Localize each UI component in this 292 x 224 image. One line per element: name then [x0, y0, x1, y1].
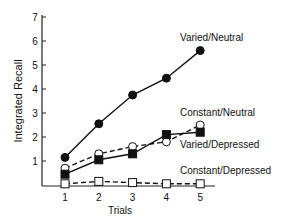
data-point-marker	[162, 180, 170, 188]
data-point-marker	[162, 131, 170, 139]
x-axis-label: Trials	[108, 205, 132, 216]
data-point-marker	[129, 91, 137, 99]
series-label: Constant/Depressed	[180, 165, 271, 176]
series-label: Constant/Neutral	[180, 107, 255, 118]
data-point-marker	[196, 180, 204, 188]
data-point-marker	[61, 170, 69, 178]
y-tick-label: 1	[32, 156, 38, 167]
y-axis-label: Integrated Recall	[12, 59, 24, 142]
data-point-marker	[196, 128, 204, 136]
series-labels: Varied/NeutralConstant/NeutralVaried/Dep…	[180, 32, 271, 176]
x-ticks: 12345	[62, 192, 203, 203]
y-ticks: 1234567	[32, 12, 46, 167]
y-tick-label: 3	[32, 108, 38, 119]
x-tick-label: 3	[130, 192, 136, 203]
data-point-marker	[95, 120, 103, 128]
y-tick-label: 7	[32, 12, 38, 23]
series-label: Varied/Depressed	[180, 139, 259, 150]
x-tick-label: 2	[96, 192, 102, 203]
x-tick-label: 1	[62, 192, 68, 203]
y-tick-label: 4	[32, 84, 38, 95]
line-chart: 1234567 12345 Integrated Recall Trials V…	[0, 0, 292, 224]
data-point-marker	[196, 47, 204, 55]
x-tick-label: 5	[197, 192, 203, 203]
y-tick-label: 6	[32, 36, 38, 47]
x-tick-label: 4	[164, 192, 170, 203]
data-point-marker	[129, 179, 137, 187]
data-point-marker	[61, 153, 69, 161]
y-tick-label: 2	[32, 132, 38, 143]
data-point-marker	[162, 74, 170, 82]
y-tick-label: 5	[32, 60, 38, 71]
series-label: Varied/Neutral	[180, 32, 243, 43]
data-point-marker	[129, 150, 137, 158]
data-point-marker	[61, 180, 69, 188]
data-point-marker	[95, 177, 103, 185]
data-point-marker	[95, 156, 103, 164]
